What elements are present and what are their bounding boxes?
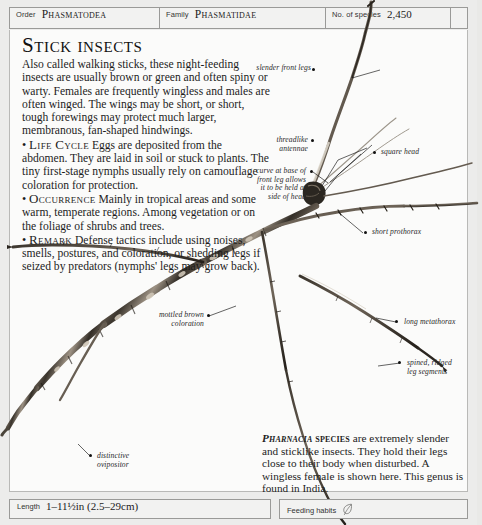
footer-cell-feeding-habits: Feeding habits [279, 499, 468, 519]
heading-life-cycle: Life Cycle [29, 137, 89, 152]
annotation-spined-ridged-legs: spined, ridged leg segments [407, 359, 475, 376]
heading-remark: Remark [29, 232, 72, 247]
annotation-distinctive-ovipositor: distinctive ovipositor [97, 452, 165, 469]
annotation-square-head: square head [381, 148, 461, 157]
head [303, 181, 326, 205]
hind-leg-left [60, 324, 104, 400]
heading-occurrence: Occurrence [29, 191, 95, 206]
annotation-dot-slender-front-legs [312, 68, 315, 71]
article-body: Also called walking sticks, these night-… [22, 58, 270, 274]
annotation-mottled-brown: mottled brown coloration [134, 311, 204, 328]
page-title: Stick insects [22, 33, 143, 58]
specimen-footer: Length 1–11½in (2.5–29cm) Feeding habits [9, 499, 468, 519]
annotation-short-prothorax: short prothorax [372, 228, 452, 237]
annotation-dot-long-metathorax [395, 320, 398, 323]
annotation-dot-threadlike-antennae [311, 139, 314, 142]
annotation-threadlike-antennae: threadlike antennae [240, 136, 308, 153]
caption-species-word: species [315, 432, 350, 444]
species-caption: Pharnacia species are extremely slender … [262, 432, 468, 495]
annotation-curve-front-leg: curve at base of front leg allows it to … [208, 167, 306, 201]
annotation-dot-distinctive-ovipositor [89, 454, 92, 457]
footer-value-length: 1–11½in (2.5–29cm) [46, 500, 138, 512]
annotation-long-metathorax: long metathorax [404, 318, 482, 327]
footer-cell-length: Length 1–11½in (2.5–29cm) [9, 499, 271, 519]
front-legs-upper [313, 1, 374, 184]
annotation-dot-curve-front-leg [310, 170, 313, 173]
footer-label-length: Length [17, 502, 40, 511]
annotation-slender-front-legs: slender front legs [226, 64, 311, 73]
bullet-remark: • [22, 233, 26, 247]
leaf-icon [342, 502, 353, 520]
annotation-dot-square-head [373, 151, 376, 154]
annotation-dot-spined-ridged-legs [398, 361, 401, 364]
footer-label-feeding-habits: Feeding habits [287, 506, 336, 515]
bullet-life-cycle: • [22, 138, 26, 152]
annotation-dot-mottled-brown [207, 314, 210, 317]
article-section-remark: • Remark Defense tactics include using n… [22, 233, 270, 274]
annotation-dot-short-prothorax [364, 231, 367, 234]
caption-genus: Pharnacia [262, 432, 312, 444]
bullet-occurrence: • [22, 192, 26, 206]
